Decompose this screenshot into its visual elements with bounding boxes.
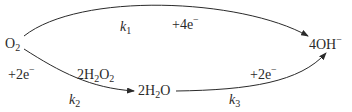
4e-text: +4e — [172, 17, 193, 32]
h2o2-coefficient: 2 — [77, 67, 84, 82]
rate-constant-k3: k3 — [229, 93, 240, 107]
species-o2: O2 — [5, 37, 20, 51]
species-4oh: 4OH− — [309, 38, 342, 52]
rate-constant-k2: k2 — [69, 93, 80, 107]
oh-charge: − — [336, 34, 342, 45]
electrons-2e-k3: +2e− — [250, 68, 277, 82]
h2o2-h: H — [84, 67, 94, 82]
2e-k3-charge: − — [271, 64, 277, 75]
oxygen-reduction-diagram: O2 4OH− 2H2O2 2H2O k1 +4e− +2e− k2 +2e− … — [0, 0, 352, 112]
h2o-o: O — [160, 83, 170, 98]
o2-base: O — [5, 36, 15, 51]
h2o2-o: O — [99, 67, 109, 82]
2e-k3-text: +2e — [250, 67, 271, 82]
2e-k2-text: +2e — [8, 67, 29, 82]
rate-constant-k1: k1 — [120, 20, 131, 34]
k1-subscript: 1 — [126, 25, 131, 36]
species-2h2o: 2H2O — [138, 84, 170, 98]
4e-charge: − — [193, 14, 199, 25]
h2o2-o-sub: 2 — [109, 73, 114, 84]
k2-subscript: 2 — [75, 98, 80, 109]
oh-coefficient: 4 — [309, 37, 316, 52]
o2-subscript: 2 — [15, 42, 20, 53]
2e-k2-charge: − — [29, 64, 35, 75]
arrow-o2-to-oh-k1 — [24, 5, 308, 36]
electrons-2e-k2: +2e− — [8, 68, 35, 82]
k3-subscript: 3 — [235, 98, 240, 109]
electrons-4e: +4e− — [172, 18, 199, 32]
oh-base: OH — [316, 37, 336, 52]
species-2h2o2: 2H2O2 — [77, 68, 114, 82]
h2o-h: H — [145, 83, 155, 98]
h2o-coefficient: 2 — [138, 83, 145, 98]
